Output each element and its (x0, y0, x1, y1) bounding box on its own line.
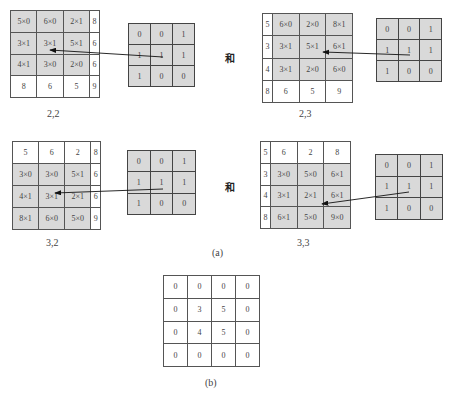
cell: 5×1 (63, 32, 89, 54)
kernel-cell: 1 (398, 40, 420, 61)
cell: 3×1 (39, 186, 65, 208)
kernel-cell: 1 (420, 155, 442, 177)
kernel-cell: 0 (420, 198, 442, 220)
conjunction-text: 和 (225, 50, 235, 65)
result-cell: 0 (236, 276, 260, 299)
kernel-grid-2-2: 0 0 1 1 1 1 1 0 0 (128, 23, 195, 87)
cell: 9×0 (324, 207, 351, 229)
kernel-cell: 0 (376, 155, 398, 177)
input-grid-2-3: 5 6×0 2×0 8×1 3 3×1 5×1 6×1 4 3×1 2×0 6×… (262, 13, 353, 103)
kernel-cell: 0 (398, 19, 420, 40)
kernel-cell: 0 (398, 61, 420, 82)
cell: 8 (263, 80, 273, 102)
cell: 2×1 (63, 11, 89, 33)
cell: 5×0 (65, 208, 91, 230)
cell: 6 (90, 54, 100, 76)
kernel-cell: 1 (150, 172, 173, 193)
cell: 6×0 (326, 58, 353, 80)
kernel-cell: 1 (129, 45, 151, 66)
result-cell: 5 (212, 298, 236, 321)
kernel-cell: 1 (420, 19, 442, 40)
cell: 2 (65, 142, 91, 164)
cell: 3×0 (37, 54, 63, 76)
result-cell: 0 (236, 344, 260, 367)
input-grid-3-2: 5 6 2 8 3×0 3×0 5×1 6 4×1 3×1 2×1 6 8×1 … (12, 141, 101, 230)
kernel-cell: 0 (150, 151, 173, 172)
result-cell: 0 (164, 276, 188, 299)
result-cell: 0 (236, 298, 260, 321)
kernel-cell: 1 (420, 176, 442, 198)
cell: 6×0 (39, 208, 65, 230)
kernel-cell: 1 (377, 40, 399, 61)
kernel-cell: 1 (173, 24, 195, 45)
cell: 6×1 (324, 185, 351, 207)
cell: 9 (326, 80, 353, 102)
result-cell: 0 (188, 344, 212, 367)
kernel-cell: 1 (377, 61, 399, 82)
kernel-grid-2-3: 0 0 1 1 1 1 1 0 0 (376, 18, 442, 82)
kernel-cell: 0 (128, 151, 151, 172)
result-grid: 0 0 0 0 0 3 5 0 0 4 5 0 0 0 0 0 (163, 275, 260, 367)
cell: 8 (324, 142, 351, 164)
cell: 5 (261, 142, 271, 164)
kernel-cell: 0 (420, 61, 442, 82)
cell: 5 (63, 76, 89, 98)
cell: 2 (297, 142, 324, 164)
cell: 2×1 (65, 186, 91, 208)
kernel-cell: 0 (173, 193, 196, 214)
cell: 4 (263, 58, 273, 80)
result-cell: 0 (236, 321, 260, 344)
cell: 6 (91, 164, 101, 186)
cell: 3 (263, 36, 273, 58)
cell: 3×0 (13, 164, 39, 186)
cell: 6×0 (37, 11, 63, 33)
kernel-cell: 1 (420, 40, 442, 61)
cell: 9 (90, 76, 100, 98)
cell: 6 (272, 80, 299, 102)
cell: 9 (91, 208, 101, 230)
panel-label-3-3: 3,3 (297, 237, 310, 248)
cell: 5 (263, 14, 273, 36)
cell: 6 (37, 76, 63, 98)
cell: 3 (261, 163, 271, 185)
result-cell: 5 (212, 321, 236, 344)
cell: 3×1 (11, 32, 37, 54)
input-grid-2-2: 5×0 6×0 2×1 8 3×1 3×1 5×1 6 4×1 3×0 2×0 … (10, 10, 100, 98)
kernel-cell: 1 (129, 66, 151, 87)
result-cell: 4 (188, 321, 212, 344)
conjunction-text: 和 (225, 179, 235, 194)
cell: 4×1 (13, 186, 39, 208)
panel-label-3-2: 3,2 (46, 237, 59, 248)
cell: 3×1 (272, 58, 299, 80)
kernel-cell: 1 (173, 45, 195, 66)
cell: 3×1 (270, 185, 297, 207)
kernel-cell: 0 (150, 193, 173, 214)
kernel-cell: 1 (398, 176, 420, 198)
cell: 6×0 (272, 14, 299, 36)
cell: 8 (11, 76, 37, 98)
kernel-cell: 0 (398, 198, 420, 220)
kernel-cell: 0 (173, 66, 195, 87)
kernel-cell: 0 (398, 155, 420, 177)
cell: 5×0 (297, 207, 324, 229)
input-grid-3-3: 5 6 2 8 3 3×0 5×0 6×1 4 3×1 2×1 6×1 8 6×… (260, 141, 351, 229)
result-cell: 0 (164, 298, 188, 321)
kernel-cell: 0 (129, 24, 151, 45)
cell: 8×1 (326, 14, 353, 36)
caption-b: (b) (205, 377, 217, 388)
cell: 5×0 (11, 11, 37, 33)
kernel-cell: 1 (173, 151, 196, 172)
cell: 8×1 (13, 208, 39, 230)
cell: 6×1 (270, 207, 297, 229)
kernel-grid-3-3: 0 0 1 1 1 1 1 0 0 (375, 154, 443, 220)
cell: 4 (261, 185, 271, 207)
cell: 8 (90, 11, 100, 33)
result-cell: 3 (188, 298, 212, 321)
cell: 3×1 (272, 36, 299, 58)
cell: 6 (270, 142, 297, 164)
result-cell: 0 (212, 276, 236, 299)
cell: 5 (299, 80, 326, 102)
kernel-cell: 1 (376, 176, 398, 198)
cell: 6 (91, 186, 101, 208)
kernel-cell: 0 (377, 19, 399, 40)
